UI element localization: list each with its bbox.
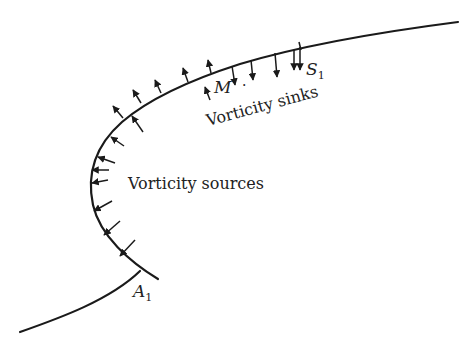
vorticity-diagram: M · S1 Vorticity sinks Vorticity sources… — [0, 0, 475, 350]
lower-curve — [20, 271, 140, 332]
label-m: M — [213, 77, 232, 97]
boundary-curve — [91, 22, 458, 279]
label-s1: S1 — [306, 59, 325, 82]
dot-after-m: · — [242, 77, 246, 93]
label-a1: A1 — [131, 281, 152, 304]
source-arrows — [92, 60, 211, 256]
label-vorticity-sources: Vorticity sources — [127, 174, 264, 193]
